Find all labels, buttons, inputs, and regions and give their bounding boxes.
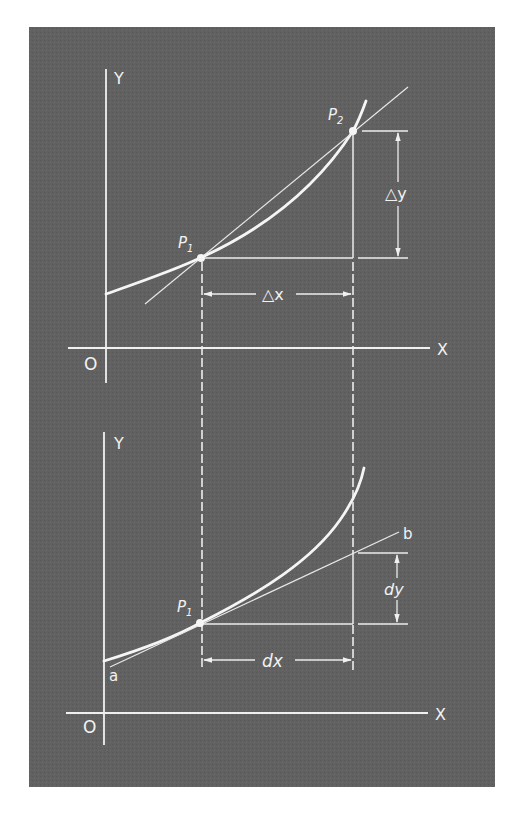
x-axis-label: X — [435, 705, 446, 724]
point-p2 — [349, 127, 357, 135]
point-p1-subscript: 1 — [186, 607, 192, 618]
dx-label: dx — [262, 651, 284, 671]
point-p2-subscript: 2 — [337, 115, 343, 126]
point-p1 — [196, 619, 204, 627]
dy-label: dy — [384, 580, 404, 599]
y-axis-label: Y — [113, 434, 124, 453]
tangent-start-label: a — [109, 667, 118, 685]
delta-y-label: △y — [385, 184, 407, 203]
origin-label: O — [84, 354, 97, 374]
point-p1 — [197, 254, 205, 262]
origin-label: O — [83, 717, 96, 737]
derivative-diagram: Y X O △y △x P1 P2 Y X O — [0, 0, 520, 817]
delta-x-label: △x — [262, 285, 284, 304]
x-axis-label: X — [437, 340, 448, 359]
y-axis-label: Y — [113, 69, 124, 88]
point-p1-subscript: 1 — [187, 243, 193, 254]
tangent-end-label: b — [403, 525, 413, 543]
dark-panel — [29, 27, 495, 787]
